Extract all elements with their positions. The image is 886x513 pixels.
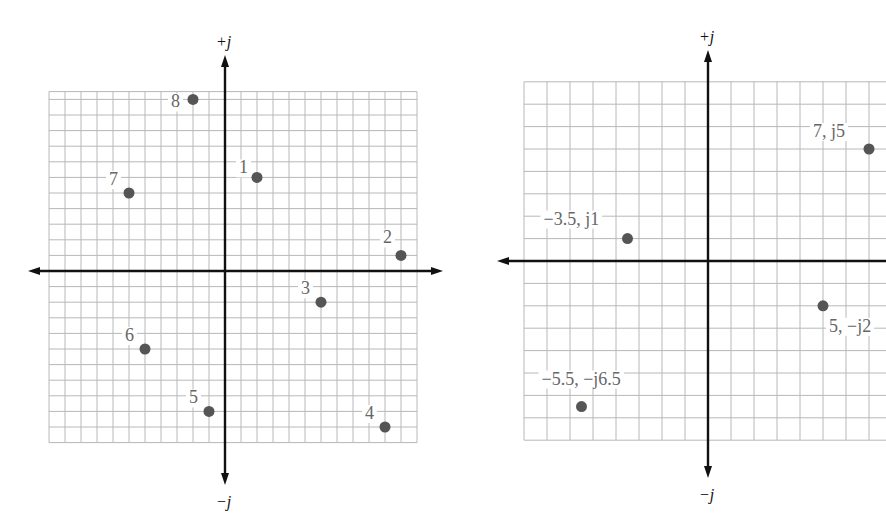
right-axes: +j−j bbox=[497, 28, 886, 504]
axis-label-negative-j: −j bbox=[699, 486, 715, 504]
point-label: 5, −j2 bbox=[829, 316, 871, 336]
point-label: −5.5, −j6.5 bbox=[542, 369, 621, 389]
point-label: −3.5, j1 bbox=[544, 209, 600, 229]
point-label: 7, j5 bbox=[813, 121, 845, 141]
axis-label-positive-j: +j bbox=[699, 28, 715, 46]
data-point bbox=[864, 144, 875, 155]
right-points: 7, j5−3.5, j15, −j2−5.5, −j6.5 bbox=[539, 121, 875, 412]
arrow-down-icon bbox=[704, 466, 712, 478]
data-point bbox=[818, 300, 829, 311]
arrow-up-icon bbox=[704, 50, 712, 62]
data-point bbox=[576, 401, 587, 412]
arrow-left-icon bbox=[497, 257, 509, 265]
right-complex-plane: +j−j 7, j5−3.5, j15, −j2−5.5, −j6.5 bbox=[0, 0, 886, 513]
data-point bbox=[622, 233, 633, 244]
